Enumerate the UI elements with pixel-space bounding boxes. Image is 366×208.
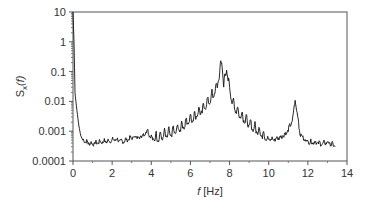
x-tick-label: 14 bbox=[341, 167, 353, 179]
y-axis-label: Sx(f) bbox=[14, 75, 29, 97]
plot-frame bbox=[73, 12, 347, 161]
y-tick-label: 0.001 bbox=[38, 125, 66, 137]
spectrum-chart: 1010.10.010.0010.000102468101214f [Hz]Sx… bbox=[0, 0, 366, 208]
x-tick-label: 10 bbox=[263, 167, 275, 179]
x-tick-label: 2 bbox=[109, 167, 115, 179]
plot-area: 1010.10.010.0010.000102468101214f [Hz]Sx… bbox=[14, 6, 353, 197]
y-tick-label: 0.0001 bbox=[32, 155, 66, 167]
spectrum-line bbox=[73, 12, 335, 147]
x-tick-label: 4 bbox=[148, 167, 154, 179]
y-tick-label: 0.1 bbox=[51, 66, 66, 78]
x-tick-label: 12 bbox=[302, 167, 314, 179]
x-tick-label: 0 bbox=[70, 167, 76, 179]
x-tick-label: 8 bbox=[227, 167, 233, 179]
y-tick-label: 10 bbox=[54, 6, 66, 18]
y-tick-label: 0.01 bbox=[45, 95, 66, 107]
y-tick-label: 1 bbox=[60, 36, 66, 48]
x-tick-label: 6 bbox=[187, 167, 193, 179]
x-axis-label: f [Hz] bbox=[197, 185, 223, 197]
